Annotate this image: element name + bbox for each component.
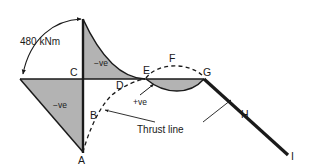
point-label-h: H [241, 108, 249, 120]
point-label-g: G [203, 66, 211, 78]
thrust-line-leader-solid [203, 100, 231, 122]
thrust-line-dashed-efg [146, 66, 204, 78]
point-label-c: C [70, 66, 78, 78]
diagram-canvas: 480 kNm −ve −ve +ve Thrust line A B C D … [0, 0, 315, 166]
positive-region-label: +ve [133, 97, 147, 107]
negative-moment-region-upper [83, 19, 144, 79]
positive-region-leader [140, 84, 154, 95]
point-label-b: B [90, 109, 97, 121]
point-label-e: E [143, 64, 150, 76]
point-label-a: A [78, 154, 85, 166]
negative-region-label-lower: −ve [53, 100, 67, 110]
thrust-line-leader-dashed [105, 110, 155, 122]
point-label-d: D [116, 79, 124, 91]
point-label-f: F [169, 52, 175, 64]
moment-value-label: 480 kNm [20, 36, 60, 47]
bending-moment-diagram-figure: 480 kNm −ve −ve +ve Thrust line A B C D … [0, 0, 315, 166]
point-label-i: I [291, 150, 294, 162]
thrust-line-label: Thrust line [137, 124, 184, 135]
negative-region-label-upper: −ve [94, 58, 108, 68]
